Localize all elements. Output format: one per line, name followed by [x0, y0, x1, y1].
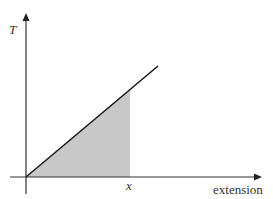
x-axis-label: extension — [213, 182, 263, 198]
x-marker-label: x — [126, 178, 132, 194]
y-axis-arrow-icon — [23, 13, 30, 21]
tension-extension-diagram: T x extension — [0, 0, 273, 199]
diagram-graphics — [0, 0, 273, 199]
y-axis-label: T — [9, 22, 16, 38]
x-axis-arrow-icon — [254, 174, 262, 181]
